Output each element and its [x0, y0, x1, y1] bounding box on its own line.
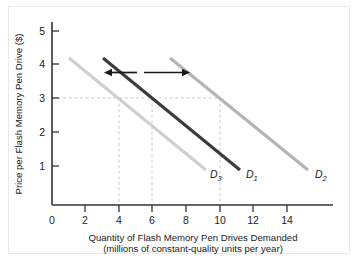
x-tick-label-0: 0 [49, 214, 55, 226]
x-axis-title-line2: (millions of constant-quality units per … [103, 243, 283, 254]
x-tick-label-2: 2 [82, 214, 88, 226]
demand-curve-d3 [69, 58, 206, 170]
demand-curves [69, 58, 308, 170]
decrease-arrow-head [104, 69, 112, 76]
y-tick-labels: 5 4 3 2 1 [39, 25, 45, 172]
demand-curve-figure: 5 4 3 2 1 0 2 4 6 8 10 12 14 D3 D1 D2 [0, 0, 363, 267]
x-tick-label-4: 4 [116, 214, 122, 226]
axes [52, 22, 333, 212]
y-tick-label-3: 3 [39, 92, 45, 104]
curve-label-d1-subscript: 1 [254, 174, 258, 183]
curve-label-d3-subscript: 3 [218, 174, 223, 183]
y-tick-label-1: 1 [39, 160, 45, 172]
x-tick-label-10: 10 [214, 214, 226, 226]
y-tick-label-5: 5 [39, 25, 45, 37]
x-tick-label-14: 14 [281, 214, 293, 226]
curve-label-d2-subscript: 2 [322, 174, 328, 183]
demand-curve-d1 [103, 58, 240, 170]
demand-curve-d2 [170, 58, 308, 170]
x-axis-title-line1: Quantity of Flash Memory Pen Drives Dema… [88, 232, 297, 243]
x-tick-label-8: 8 [183, 214, 189, 226]
curve-label-d3: D3 [210, 168, 223, 183]
y-axis-title: Price per Flash Memory Pen Drive ($) [13, 33, 24, 194]
curve-label-d2: D2 [315, 168, 328, 183]
x-tick-label-12: 12 [247, 214, 259, 226]
x-tick-label-6: 6 [149, 214, 155, 226]
curve-labels: D3 D1 D2 [210, 168, 328, 183]
curve-label-d1: D1 [246, 168, 258, 183]
demand-curve-chart: 5 4 3 2 1 0 2 4 6 8 10 12 14 D3 D1 D2 [0, 0, 363, 267]
x-tick-labels: 0 2 4 6 8 10 12 14 [49, 214, 293, 226]
y-tick-label-4: 4 [39, 58, 45, 70]
y-tick-label-2: 2 [39, 126, 45, 138]
